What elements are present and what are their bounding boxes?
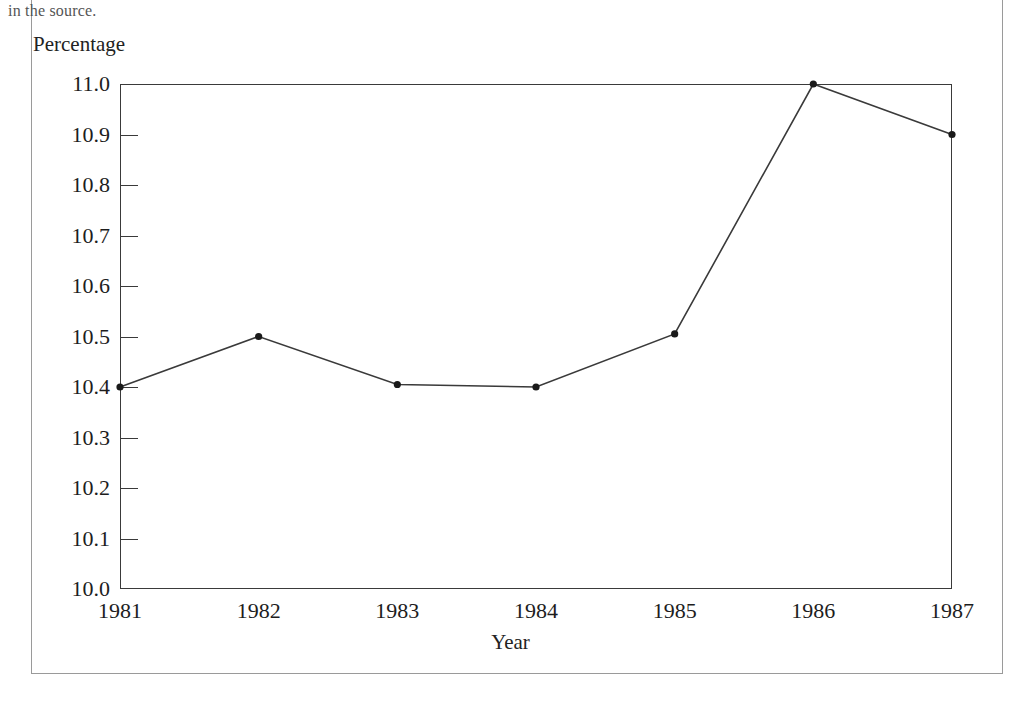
data-point-marker [948,131,955,138]
data-point-marker [532,383,539,390]
data-point-marker [810,80,817,87]
series-line [120,84,952,387]
data-point-marker [255,333,262,340]
series-markers [116,80,955,390]
data-point-marker [671,330,678,337]
data-point-marker [394,381,401,388]
line-chart: 11.010.910.810.710.610.510.410.310.210.1… [0,0,1021,710]
data-point-marker [116,383,123,390]
data-series-layer [0,0,1021,710]
x-axis-title: Year [0,630,1021,655]
